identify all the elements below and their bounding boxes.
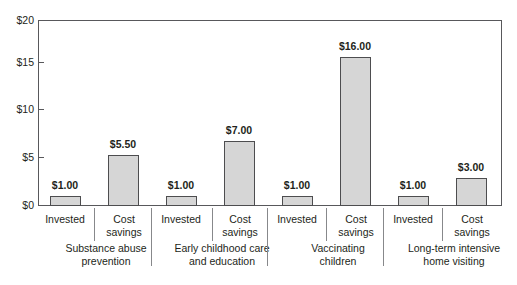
separator-inner-3: [326, 208, 327, 241]
bar-value-homevisiting-savings: $3.00: [436, 162, 506, 173]
category-label-6-line2: savings: [319, 226, 393, 239]
category-label-8-line1: Cost: [435, 213, 509, 226]
bar-value-earlychildhood-savings: $7.00: [204, 125, 274, 136]
bar-chart: $20 $15 $10 $5 $0 $1.00 $5.50 $1.00 $7.0…: [0, 0, 517, 285]
bar-substance-savings: [108, 155, 139, 206]
bar-value-vaccinating-savings: $16.00: [320, 41, 390, 52]
bar-value-vaccinating-invested: $1.00: [262, 180, 332, 191]
bar-value-homevisiting-invested: $1.00: [378, 180, 448, 191]
separator-inner-1: [94, 208, 95, 241]
category-label-4-line2: savings: [203, 226, 277, 239]
category-label-2-line2: savings: [87, 226, 161, 239]
separator-inner-2: [212, 208, 213, 241]
category-label-8-line2: savings: [435, 226, 509, 239]
group-label-long-term-intensive-home-visiting: Long-term intensive home visiting: [384, 242, 517, 267]
separator-inner-4: [442, 208, 443, 241]
bar-earlychildhood-savings: [224, 141, 255, 206]
separator-group-2: [267, 208, 268, 266]
bar-value-earlychildhood-invested: $1.00: [146, 180, 216, 191]
bar-earlychildhood-invested: [166, 196, 197, 206]
category-label-8: Cost savings: [435, 213, 509, 238]
bar-value-substance-invested: $1.00: [30, 180, 100, 191]
bar-homevisiting-invested: [398, 196, 429, 206]
bar-vaccinating-invested: [282, 196, 313, 206]
bar-value-substance-savings: $5.50: [88, 139, 158, 150]
group-label-4-line1: Long-term intensive: [384, 242, 517, 255]
group-label-4-line2: home visiting: [384, 255, 517, 268]
separator-group-1: [151, 208, 152, 266]
bar-substance-invested: [50, 196, 81, 206]
bar-homevisiting-savings: [456, 178, 487, 206]
bar-vaccinating-savings: [340, 57, 371, 206]
separator-group-3: [383, 208, 384, 266]
